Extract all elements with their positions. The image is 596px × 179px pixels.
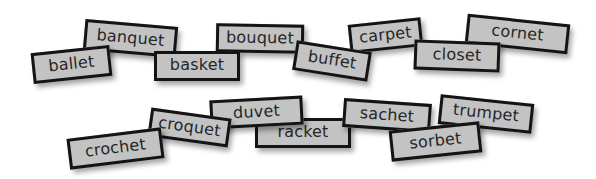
card-label: racket [277, 124, 328, 142]
card-label: sachet [359, 104, 415, 126]
card-label: closet [432, 46, 481, 66]
card-label: croquet [157, 114, 222, 141]
card-label: buffet [306, 48, 357, 73]
word-card-bouquet[interactable]: bouquet [216, 23, 304, 54]
card-label: bouquet [226, 28, 294, 47]
word-card-closet[interactable]: closet [414, 40, 501, 73]
card-label: crochet [83, 135, 146, 160]
word-card-crochet[interactable]: crochet [66, 127, 164, 169]
word-card-board: banquet ballet basket bouquet buffet car… [0, 0, 596, 179]
card-label: basket [170, 57, 224, 75]
card-label: sorbet [408, 129, 462, 152]
card-label: carpet [358, 23, 412, 46]
word-card-carpet[interactable]: carpet [347, 17, 423, 53]
card-label: ballet [47, 53, 95, 76]
card-label: duvet [232, 102, 280, 122]
word-card-basket[interactable]: basket [154, 51, 240, 81]
word-card-ballet[interactable]: ballet [30, 44, 112, 83]
